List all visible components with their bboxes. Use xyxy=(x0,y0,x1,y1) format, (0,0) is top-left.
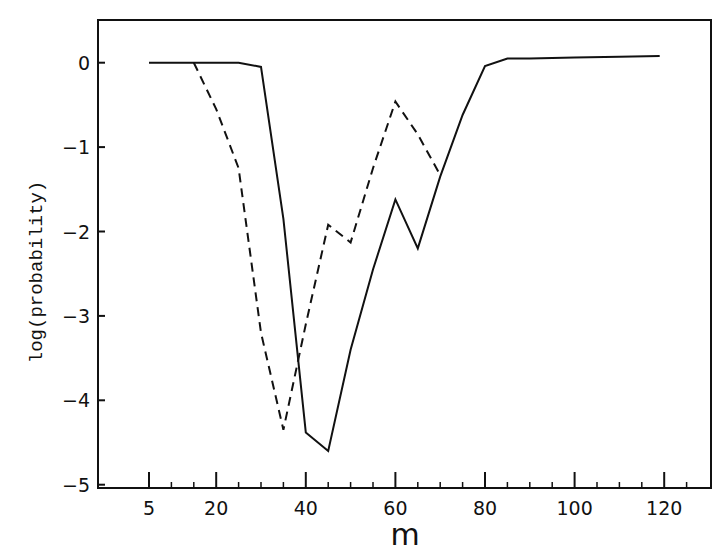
y-tick-label: −4 xyxy=(62,389,90,411)
y-tick-label: 0 xyxy=(78,52,90,74)
y-tick-label: −3 xyxy=(62,305,90,327)
x-tick-label: 40 xyxy=(294,497,318,519)
plot-frame xyxy=(98,20,711,488)
x-tick-label: 120 xyxy=(646,497,682,519)
y-tick-label: −1 xyxy=(62,136,90,158)
x-axis: 520406080100120 xyxy=(143,472,687,519)
y-axis-title: log(probability) xyxy=(26,181,48,363)
chart: 520406080100120 0−1−2−3−4−5 m log(probab… xyxy=(0,0,726,557)
x-tick-label: 80 xyxy=(473,497,497,519)
x-tick-label: 20 xyxy=(204,497,228,519)
series-line-dashed xyxy=(194,63,440,430)
x-tick-label: 5 xyxy=(143,497,155,519)
x-axis-title: m xyxy=(390,517,419,552)
y-tick-label: −5 xyxy=(62,474,90,496)
x-tick-label: 60 xyxy=(383,497,407,519)
x-tick-label: 100 xyxy=(556,497,592,519)
series-layer xyxy=(149,56,660,451)
y-tick-label: −2 xyxy=(62,221,90,243)
